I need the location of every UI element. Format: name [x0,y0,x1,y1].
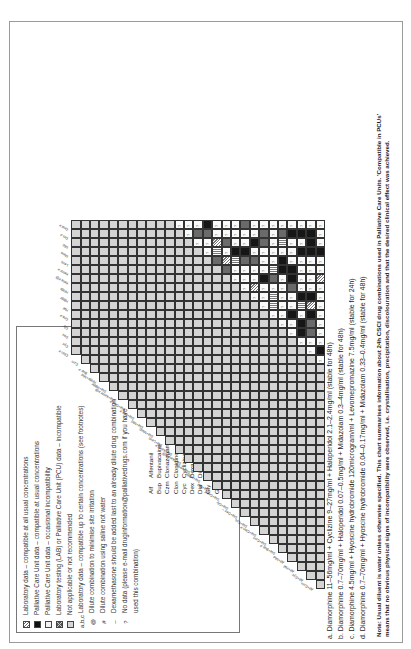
grid-cell [212,445,221,454]
grid-cell [175,274,184,283]
grid-cell [306,427,315,436]
grid-cell [193,319,202,328]
hash-symbol-icon: # [101,616,107,628]
grid-cell [146,274,155,283]
grid-cell: ? [269,256,278,265]
grid-cell [297,427,306,436]
grid-cell [203,454,212,463]
grid-cell [287,283,296,292]
grid-cell [231,472,240,481]
grid-cell [240,445,249,454]
grid-cell: ? [222,247,231,256]
grid-cell [316,274,325,283]
grid-cell [193,328,202,337]
grid-cell [306,517,315,526]
grid-cell [316,364,325,373]
grid-cell [250,427,259,436]
chart-note: Note: Usual diluent is water unless othe… [375,37,391,637]
grid-cell [156,337,165,346]
grid-cell: ? [287,247,296,256]
grid-cell: ? [250,265,259,274]
grid-cell [175,400,184,409]
grid-cell [259,436,268,445]
grid-cell [269,292,278,301]
grid-cell [250,400,259,409]
grid-cell [90,310,99,319]
grid-cell [175,409,184,418]
grid-cell [165,436,174,445]
grid-cell [297,292,306,301]
grid-cell [71,229,80,238]
grid-cell [184,256,193,265]
grid-cell [306,463,315,472]
grid-cell [165,346,174,355]
grid-cell [287,436,296,445]
grid-cell [297,544,306,553]
grid-cell: ? [240,283,249,292]
grid-cell [156,427,165,436]
grid-cell [203,301,212,310]
grid-cell [193,229,202,238]
grid-cell [269,427,278,436]
grid-cell [278,535,287,544]
grid-cell [128,382,137,391]
grid-cell [71,256,80,265]
grid-cell [203,400,212,409]
grid-cell [175,229,184,238]
grid-cell [316,346,325,355]
grid-cell [212,265,221,274]
grid-cell [250,301,259,310]
grid-cell [250,382,259,391]
grid-cell [165,238,174,247]
grid-cell [259,526,268,535]
grid-cell: ? [278,274,287,283]
grid-cell [269,346,278,355]
grid-cell [193,382,202,391]
grid-cell [203,355,212,364]
grid-cell [297,481,306,490]
grid-cell [118,391,127,400]
grid-cell [71,265,80,274]
grid-cell [184,283,193,292]
grid-cell [146,328,155,337]
grid-cell [165,283,174,292]
grid-cell [278,463,287,472]
grid-cell [287,499,296,508]
grid-cell [269,481,278,490]
grid-cell [184,247,193,256]
grid-cell [297,355,306,364]
footnote-a: a. Diamorphine 11–56mg/ml + Cyclizine 9–… [326,342,333,639]
grid-cell [278,256,287,265]
grid-cell [278,544,287,553]
at-symbol-icon: @ [90,616,96,628]
grid-cell [128,400,137,409]
grid-cell [156,382,165,391]
grid-cell: ? [231,220,240,229]
grid-cell [240,247,249,256]
grid-cell [99,265,108,274]
grid-cell [316,526,325,535]
grid-cell [240,220,249,229]
grid-cell [278,499,287,508]
grid-cell: ? [316,301,325,310]
grid-cell [203,319,212,328]
grid-cell [165,229,174,238]
grid-cell [212,319,221,328]
grid-cell: ? [297,256,306,265]
grid-cell [240,337,249,346]
grid-cell [118,328,127,337]
grid-cell: ? [297,283,306,292]
grid-cell: ? [316,283,325,292]
grid-cell [128,256,137,265]
grid-cell [306,481,315,490]
grid-cell [71,328,80,337]
grid-cell [212,238,221,247]
grid-cell [297,499,306,508]
grid-cell [259,328,268,337]
grid-cell [81,292,90,301]
grid-cell: ? [316,355,325,364]
grid-cell [222,355,231,364]
grid-cell: ? [306,337,315,346]
grid-cell [259,409,268,418]
grid-cell [165,220,174,229]
